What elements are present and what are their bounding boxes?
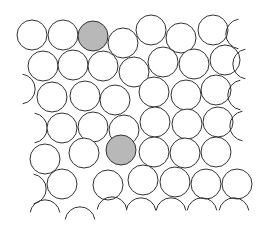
circle [219,198,249,211]
circle [187,198,217,211]
circle [201,75,231,105]
circle [210,45,240,75]
circle [148,47,178,77]
circle [198,15,228,45]
circle [47,113,77,143]
circle [48,20,78,50]
circle [28,51,58,81]
circle [30,144,60,174]
circle-packing-diagram [0,0,262,241]
circle [58,50,88,80]
circle [201,137,231,167]
circle [156,198,186,211]
circle [65,207,95,220]
circle [69,138,99,168]
circle [160,167,190,197]
circle [35,113,48,143]
circle [23,74,36,104]
circle [128,165,158,195]
circle [139,77,169,107]
circle [191,169,221,199]
circle [100,85,130,115]
circle [140,107,170,137]
circle [203,107,233,137]
circle [222,169,252,199]
circle [126,198,156,211]
circle [47,169,77,199]
circle [17,20,47,50]
circle [37,82,67,112]
circle [70,81,100,111]
highlighted-circle [78,21,108,51]
circle [78,112,108,142]
circle [171,80,201,110]
circle [136,15,166,45]
circle [93,170,123,200]
circle [170,138,200,168]
circle [172,109,202,139]
highlighted-circle [106,135,136,165]
circle [88,51,118,81]
circle [179,49,209,79]
circle [108,28,138,58]
diagram-svg [0,0,262,241]
circle [139,137,169,167]
circle [30,200,60,213]
